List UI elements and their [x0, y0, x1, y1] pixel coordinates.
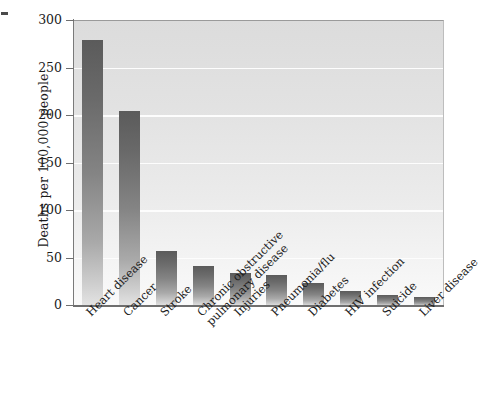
- y-tick-label-150: 150: [38, 157, 62, 169]
- y-tick-mark-250: [66, 68, 74, 69]
- y-tick-mark-0: [66, 305, 74, 306]
- y-tick-label-0: 0: [54, 299, 62, 311]
- y-tick-label-300: 300: [38, 14, 62, 26]
- y-tick-label-200: 200: [38, 109, 62, 121]
- y-tick-mark-300: [66, 20, 74, 21]
- edge-artifact-mark: [1, 12, 8, 15]
- y-tick-mark-100: [66, 210, 74, 211]
- y-tick-label-100: 100: [38, 204, 62, 216]
- y-tick-mark-150: [66, 163, 74, 164]
- gridline-250: [74, 68, 443, 70]
- y-tick-label-250: 250: [38, 62, 62, 74]
- y-tick-mark-200: [66, 115, 74, 116]
- y-tick-mark-50: [66, 258, 74, 259]
- bar: [82, 40, 103, 306]
- y-tick-label-50: 50: [46, 252, 62, 264]
